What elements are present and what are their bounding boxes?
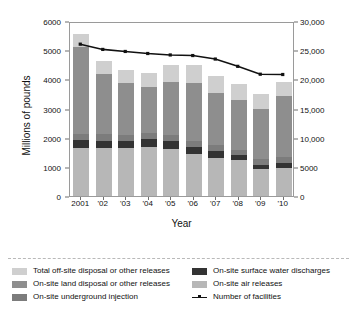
x-tick-mark: [103, 197, 104, 200]
legend-swatch-icon: [192, 281, 207, 288]
legend-swatch-icon: [12, 268, 27, 275]
y-tick-mark-right: [294, 138, 298, 139]
legend-land[interactable]: On-site land disposal or other releases: [12, 279, 182, 288]
x-tick-label-09: '09: [255, 199, 265, 208]
y-tick-mark-left: [65, 80, 69, 81]
chart-legend: Total off-site disposal or other release…: [8, 266, 349, 326]
y-tick-label-right-0: 0: [300, 193, 348, 202]
y-tick-mark-right: [294, 51, 298, 52]
legend-label: On-site air releases: [213, 279, 282, 288]
legend-label: On-site surface water discharges: [213, 266, 330, 275]
legend-line-icon: [192, 294, 207, 301]
line-marker-09: [259, 73, 262, 76]
y-tick-label-right-25000: 25,000: [300, 47, 348, 56]
line-marker-10: [281, 73, 284, 76]
x-tick-label-06: '06: [188, 199, 198, 208]
y-tick-label-left-5000: 5000: [17, 47, 61, 56]
y-tick-label-left-6000: 6000: [17, 18, 61, 27]
x-tick-label-08: '08: [233, 199, 243, 208]
legend-injection[interactable]: On-site underground injection: [12, 292, 182, 301]
x-tick-label-05: '05: [165, 199, 175, 208]
legend-label: On-site underground injection: [33, 292, 138, 301]
legend-air[interactable]: On-site air releases: [192, 279, 357, 288]
y-tick-mark-right: [294, 109, 298, 110]
x-tick-label-03: '03: [120, 199, 130, 208]
chart-figure: Millions of pounds Number of facilities …: [0, 0, 357, 333]
x-axis-label: Year: [69, 218, 294, 229]
x-tick-label-04: '04: [143, 199, 153, 208]
legend-divider: [8, 258, 349, 259]
legend-label: Total off-site disposal or other release…: [33, 266, 170, 275]
line-marker-02: [101, 48, 104, 51]
y-tick-mark-right: [294, 197, 298, 198]
facilities-line-path: [80, 44, 283, 74]
y-tick-mark-right: [294, 167, 298, 168]
line-marker-07: [214, 57, 217, 60]
plot-area-wrapper: Millions of pounds Number of facilities …: [0, 0, 357, 250]
y-tick-mark-left: [65, 109, 69, 110]
y-tick-mark-left: [65, 22, 69, 23]
legend-swatch-icon: [12, 294, 27, 301]
y-tick-label-right-15000: 15,000: [300, 105, 348, 114]
line-marker-05: [169, 53, 172, 56]
y-tick-label-left-0: 0: [17, 193, 61, 202]
y-tick-label-right-30000: 30,000: [300, 18, 348, 27]
legend-water[interactable]: On-site surface water discharges: [192, 266, 357, 275]
line-marker-03: [124, 50, 127, 53]
legend-facilities[interactable]: Number of facilities: [192, 292, 357, 301]
x-tick-mark: [148, 197, 149, 200]
legend-offsite[interactable]: Total off-site disposal or other release…: [12, 266, 182, 275]
legend-column-left: Total off-site disposal or other release…: [12, 266, 182, 305]
y-tick-mark-right: [294, 80, 298, 81]
line-marker-2001: [79, 43, 82, 46]
y-tick-mark-left: [65, 167, 69, 168]
y-tick-mark-left: [65, 197, 69, 198]
line-marker-08: [236, 65, 239, 68]
x-tick-mark: [260, 197, 261, 200]
y-tick-label-left-1000: 1000: [17, 163, 61, 172]
x-tick-label-07: '07: [210, 199, 220, 208]
x-tick-mark: [238, 197, 239, 200]
y-tick-label-left-3000: 3000: [17, 105, 61, 114]
x-tick-mark: [215, 197, 216, 200]
legend-label: On-site land disposal or other releases: [33, 279, 170, 288]
y-tick-label-right-5000: 5000: [300, 163, 348, 172]
facilities-line-series: [69, 22, 294, 197]
y-tick-mark-right: [294, 22, 298, 23]
y-tick-label-right-10000: 10,000: [300, 134, 348, 143]
y-tick-mark-left: [65, 51, 69, 52]
y-tick-label-left-4000: 4000: [17, 76, 61, 85]
legend-swatch-icon: [192, 268, 207, 275]
line-marker-04: [146, 52, 149, 55]
x-tick-mark: [193, 197, 194, 200]
x-tick-mark: [80, 197, 81, 200]
line-marker-06: [191, 54, 194, 57]
x-tick-mark: [170, 197, 171, 200]
x-tick-label-10: '10: [278, 199, 288, 208]
y-tick-label-right-20000: 20,000: [300, 76, 348, 85]
x-tick-mark: [283, 197, 284, 200]
x-tick-mark: [125, 197, 126, 200]
x-tick-label-2001: 2001: [71, 199, 89, 208]
x-tick-label-02: '02: [98, 199, 108, 208]
legend-column-right: On-site surface water dischargesOn-site …: [192, 266, 357, 305]
y-tick-mark-left: [65, 138, 69, 139]
legend-swatch-icon: [12, 281, 27, 288]
legend-label: Number of facilities: [213, 292, 281, 301]
y-tick-label-left-2000: 2000: [17, 134, 61, 143]
